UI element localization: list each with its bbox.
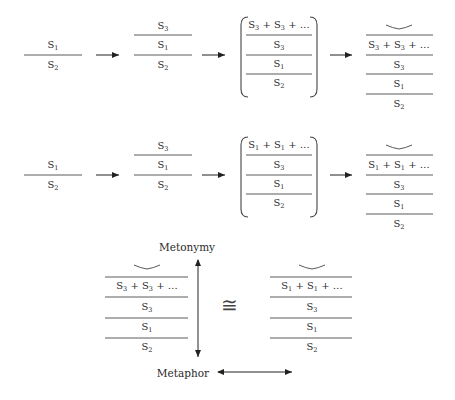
row-2-right-bracket: [310, 137, 317, 217]
row-1-stage4-label-3: S2: [394, 99, 405, 111]
diagram-canvas: [0, 0, 455, 400]
row-2-stage1-label-0: S1: [48, 160, 59, 172]
row-1-stage4-label-0: S3 + S3 + …: [368, 40, 429, 52]
row-2-left-bracket: [241, 137, 248, 217]
row-1-stage3-label-3: S2: [274, 78, 285, 90]
row-1-stage2-label-2: S2: [158, 60, 169, 72]
row-2-stage4-label-0: S1 + S1 + …: [368, 160, 429, 172]
row-1-stage3-label-1: S3: [274, 40, 285, 52]
comparison-right-brace: [299, 265, 325, 269]
comparison-left-label-3: S2: [142, 342, 153, 354]
row-2-stage3-label-1: S3: [274, 160, 285, 172]
row-2-stage1-label-1: S2: [48, 180, 59, 192]
row-1-stage3-label-0: S3 + S3 + …: [248, 20, 309, 32]
comparison-right-label-2: S1: [307, 322, 318, 334]
row-1-stage1-label-1: S2: [48, 60, 59, 72]
row-1-stage1-label-0: S1: [48, 40, 59, 52]
row-2-stage3-label-3: S2: [274, 198, 285, 210]
row-1-stage3-label-2: S1: [274, 59, 285, 71]
row-1-stage2-label-0: S3: [158, 21, 169, 33]
row-1-left-bracket: [241, 17, 248, 97]
comparison-right-label-1: S3: [307, 302, 318, 314]
row-2-stage3-label-0: S1 + S1 + …: [248, 140, 309, 152]
metaphor-label: Metaphor: [157, 368, 209, 379]
congruence-symbol: ≅: [221, 295, 238, 315]
row-2-stage4-label-3: S2: [394, 219, 405, 231]
row-1-stage4-label-1: S3: [394, 60, 405, 72]
row-2-stage3-label-2: S1: [274, 179, 285, 191]
comparison-left-brace: [134, 265, 160, 269]
row-2-stage4-label-2: S1: [394, 199, 405, 211]
row-1-right-bracket: [310, 17, 317, 97]
comparison-right-label-3: S2: [307, 342, 318, 354]
row-1-stage4-label-2: S1: [394, 79, 405, 91]
comparison-left-label-1: S3: [142, 302, 153, 314]
row-2-stage2-label-1: S1: [158, 160, 169, 172]
row-1-stage2-label-1: S1: [158, 40, 169, 52]
metonymy-label: Metonymy: [159, 242, 215, 253]
comparison-right-label-0: S1 + S1 + …: [281, 281, 342, 293]
row-2-stage2-label-0: S3: [158, 141, 169, 153]
row-2-stage4-label-1: S3: [394, 180, 405, 192]
row-2-stage2-label-2: S2: [158, 180, 169, 192]
comparison-left-label-0: S3 + S3 + …: [116, 281, 177, 293]
row-1-brace: [386, 25, 412, 29]
row-2-brace: [386, 145, 412, 149]
comparison-left-label-2: S1: [142, 322, 153, 334]
